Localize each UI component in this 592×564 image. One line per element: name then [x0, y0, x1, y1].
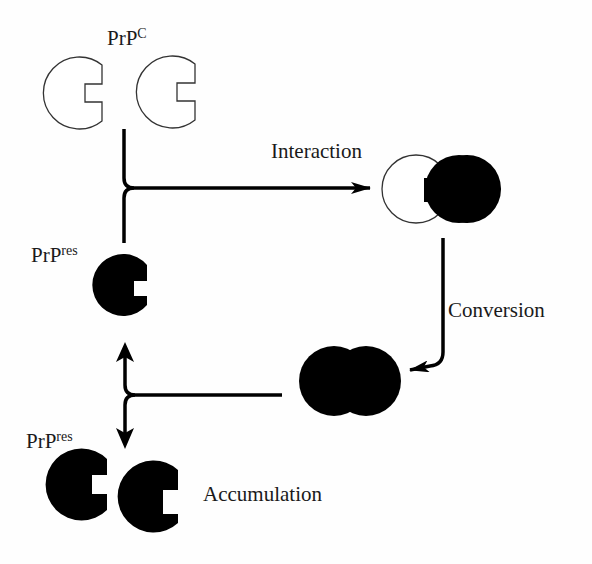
prpc-label-sup: C [137, 26, 146, 41]
prion-conversion-diagram: PrPC PrPres PrPres Interaction Conversio… [0, 0, 592, 564]
accumulation-label: Accumulation [203, 484, 322, 505]
release-arrows [116, 342, 282, 449]
converted-dimer [299, 346, 401, 416]
prpres-bottom-label: PrPres [26, 430, 73, 452]
prpres-top-label-sup: res [61, 243, 77, 258]
prpc-label-base: PrP [107, 26, 137, 50]
prpc-label: PrPC [107, 27, 147, 49]
prpres-bottom-label-sup: res [56, 429, 72, 444]
accumulated-prpres-1 [46, 449, 107, 521]
interaction-label: Interaction [271, 141, 362, 162]
conversion-label: Conversion [448, 300, 545, 321]
interaction-complex [382, 155, 501, 223]
prpc-monomer-2 [136, 56, 195, 128]
accumulated-prpres-2 [118, 460, 178, 532]
prpc-monomer-1 [43, 57, 102, 129]
diagram-graphics [0, 0, 592, 564]
prpres-monomer [92, 254, 147, 316]
prpres-top-label-base: PrP [31, 243, 61, 267]
conversion-arrow [410, 238, 443, 370]
prpres-top-label: PrPres [31, 244, 78, 266]
prpres-bottom-label-base: PrP [26, 429, 56, 453]
